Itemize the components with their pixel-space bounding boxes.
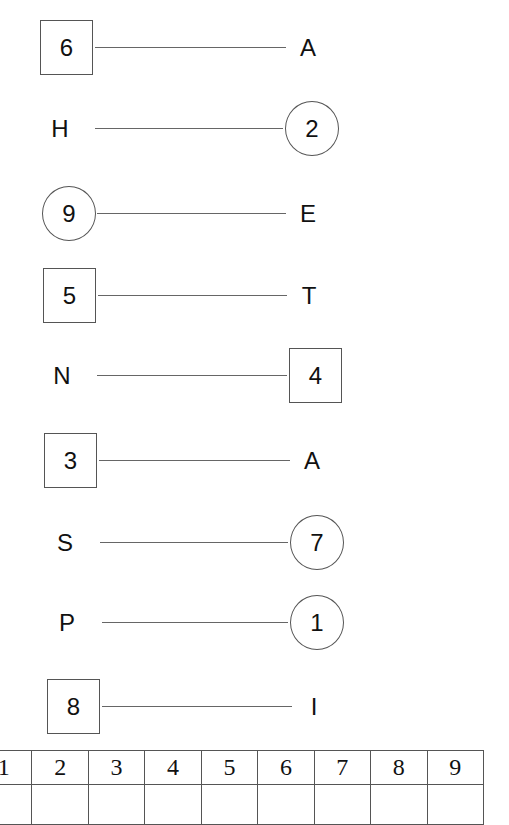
left-item: H [40,101,80,156]
answer-table-header-row: 1 2 3 4 5 6 7 8 9 [0,751,484,785]
left-item-box: 8 [47,679,100,734]
connector-line [99,460,290,461]
connector-line [102,622,288,623]
header-cell-2: 2 [32,751,88,785]
answer-cell-8[interactable] [371,785,427,825]
header-cell-8: 8 [371,751,427,785]
pair-row: 5T [0,268,509,328]
answer-cell-2[interactable] [32,785,88,825]
header-cell-4: 4 [145,751,201,785]
left-item: N [42,348,82,403]
pair-row: H2 [0,101,509,161]
header-cell-5: 5 [201,751,257,785]
left-item-box: 3 [44,433,97,488]
answer-cell-1[interactable] [0,785,32,825]
answer-table-answer-row [0,785,484,825]
connector-line [97,375,287,376]
answer-cell-3[interactable] [88,785,144,825]
header-cell-9: 9 [427,751,484,785]
pair-row: 3A [0,433,509,493]
answer-cell-7[interactable] [314,785,370,825]
left-item: S [45,515,85,570]
pair-row: 9E [0,186,509,246]
right-item: E [288,186,328,241]
right-item-circle: 1 [290,595,344,650]
connector-line [95,128,283,129]
header-cell-3: 3 [88,751,144,785]
left-item-box: 5 [43,268,96,323]
connector-line [100,542,288,543]
answer-cell-9[interactable] [427,785,484,825]
connector-line [95,47,286,48]
header-cell-6: 6 [258,751,314,785]
right-item: A [288,20,328,75]
pair-row: P1 [0,595,509,655]
pair-row: S7 [0,515,509,575]
left-item-box: 6 [40,20,93,75]
right-item: T [289,268,329,323]
right-item: A [292,433,332,488]
answer-cell-4[interactable] [145,785,201,825]
answer-cell-5[interactable] [201,785,257,825]
left-item: P [47,595,87,650]
connector-line [98,295,287,296]
right-item-circle: 7 [290,515,344,570]
pair-row: 6A [0,20,509,80]
right-item-box: 4 [289,348,342,403]
right-item-circle: 2 [285,101,339,156]
header-cell-1: 1 [0,751,32,785]
answer-cell-6[interactable] [258,785,314,825]
pair-row: 8I [0,679,509,739]
header-cell-7: 7 [314,751,370,785]
right-item: I [294,679,334,734]
connector-line [102,706,292,707]
answer-table: 1 2 3 4 5 6 7 8 9 [0,750,484,825]
left-item-circle: 9 [42,186,96,241]
connector-line [97,213,286,214]
pair-row: N4 [0,348,509,408]
